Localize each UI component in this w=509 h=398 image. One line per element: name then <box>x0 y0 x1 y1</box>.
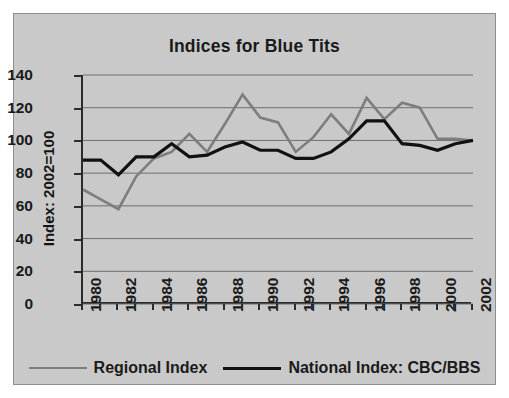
y-tick-mark-140 <box>74 75 81 77</box>
y-tick-label-140: 140 <box>0 66 33 84</box>
y-tick-label-60: 60 <box>0 197 33 215</box>
x-tick-mark-1981 <box>99 304 101 310</box>
y-tick-label-120: 120 <box>0 99 33 117</box>
plot-svg <box>83 75 473 304</box>
x-tick-label-1992: 1992 <box>300 278 318 312</box>
x-tick-mark-1999 <box>418 304 420 310</box>
x-tick-label-2000: 2000 <box>442 278 460 312</box>
x-tick-mark-1993 <box>311 304 313 310</box>
x-tick-label-1994: 1994 <box>335 278 353 312</box>
x-tick-mark-1980 <box>81 304 83 310</box>
x-tick-mark-2000 <box>436 304 438 310</box>
y-tick-label-20: 20 <box>0 262 33 280</box>
y-tick-mark-80 <box>74 173 81 175</box>
y-tick-mark-20 <box>74 271 81 273</box>
y-tick-mark-120 <box>74 108 81 110</box>
series-line-national-index <box>83 121 473 175</box>
x-tick-mark-2002 <box>471 304 473 310</box>
plot-area <box>81 75 471 304</box>
legend-label: Regional Index <box>94 359 208 377</box>
x-tick-mark-1986 <box>187 304 189 310</box>
chart-figure: Indices for Blue Tits Index: 2002=100 14… <box>13 13 496 385</box>
x-tick-mark-1987 <box>205 304 207 310</box>
chart-title: Indices for Blue Tits <box>14 36 495 57</box>
x-tick-mark-1985 <box>170 304 172 310</box>
x-tick-label-1986: 1986 <box>193 278 211 312</box>
y-tick-mark-100 <box>74 140 81 142</box>
x-tick-mark-1998 <box>400 304 402 310</box>
x-tick-mark-1988 <box>223 304 225 310</box>
legend-entry-national-index[interactable]: National Index: CBC/BBS <box>223 359 480 377</box>
x-tick-label-1980: 1980 <box>87 278 105 312</box>
x-tick-label-1984: 1984 <box>158 278 176 312</box>
legend-line-swatch-national <box>223 367 281 370</box>
x-tick-mark-1984 <box>152 304 154 310</box>
y-tick-mark-60 <box>74 206 81 208</box>
legend-label: National Index: CBC/BBS <box>288 359 480 377</box>
x-tick-label-1988: 1988 <box>229 278 247 312</box>
y-tick-mark-40 <box>74 239 81 241</box>
y-tick-mark-0 <box>74 304 81 306</box>
y-tick-label-80: 80 <box>0 164 33 182</box>
x-tick-mark-1989 <box>241 304 243 310</box>
y-tick-label-100: 100 <box>0 131 33 149</box>
x-tick-mark-1991 <box>276 304 278 310</box>
x-tick-mark-1982 <box>116 304 118 310</box>
x-tick-label-1996: 1996 <box>371 278 389 312</box>
x-tick-label-2002: 2002 <box>477 278 495 312</box>
x-tick-label-1990: 1990 <box>264 278 282 312</box>
x-tick-mark-1990 <box>258 304 260 310</box>
chart-legend: Regional IndexNational Index: CBC/BBS <box>14 359 495 377</box>
x-tick-mark-1997 <box>382 304 384 310</box>
y-tick-label-40: 40 <box>0 230 33 248</box>
x-tick-label-1998: 1998 <box>406 278 424 312</box>
legend-entry-regional-index[interactable]: Regional Index <box>29 359 208 377</box>
legend-line-swatch-regional <box>29 367 87 369</box>
y-axis-title: Index: 2002=100 <box>40 89 57 289</box>
y-tick-label-0: 0 <box>0 295 33 313</box>
x-tick-mark-1995 <box>347 304 349 310</box>
x-tick-mark-1996 <box>365 304 367 310</box>
x-tick-label-1982: 1982 <box>122 278 140 312</box>
x-tick-mark-1994 <box>329 304 331 310</box>
x-tick-mark-1983 <box>134 304 136 310</box>
x-tick-mark-1992 <box>294 304 296 310</box>
x-tick-mark-2001 <box>453 304 455 310</box>
